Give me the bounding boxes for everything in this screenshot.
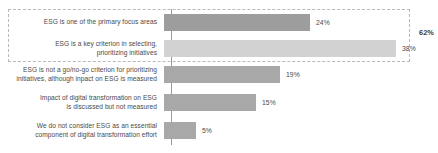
category-label: Impact of digital transformation on ESG … bbox=[0, 94, 164, 111]
category-label: ESG is one of the primary focus areas bbox=[0, 18, 164, 27]
category-label: ESG is a key criterion in selecting, pri… bbox=[0, 40, 164, 57]
bar[interactable] bbox=[164, 66, 280, 83]
bar[interactable] bbox=[164, 40, 396, 57]
bar-value-label: 19% bbox=[280, 71, 300, 78]
chart-row: We do not consider ESG as an essential c… bbox=[0, 122, 438, 139]
bar-value-label: 15% bbox=[256, 99, 276, 106]
bar-value-label: 38% bbox=[396, 45, 416, 52]
bar-area: 24% bbox=[164, 14, 438, 31]
category-label: We do not consider ESG as an essential c… bbox=[0, 122, 164, 139]
chart-row: ESG is a key criterion in selecting, pri… bbox=[0, 40, 438, 57]
bar-area: 5% bbox=[164, 122, 438, 139]
bar[interactable] bbox=[164, 94, 256, 111]
bar[interactable] bbox=[164, 122, 196, 139]
chart-row: ESG is one of the primary focus areas 24… bbox=[0, 14, 438, 31]
bar-area: 15% bbox=[164, 94, 438, 111]
bar-chart: ESG is one of the primary focus areas 24… bbox=[0, 0, 438, 153]
bar-area: 19% bbox=[164, 66, 438, 83]
bar-value-label: 5% bbox=[196, 127, 212, 134]
bar-area: 38% bbox=[164, 40, 438, 57]
chart-row: ESG is not a go/no-go criterion for prio… bbox=[0, 66, 438, 83]
bar-value-label: 24% bbox=[310, 19, 330, 26]
total-percentage-annotation: 62% bbox=[419, 28, 434, 37]
chart-row: Impact of digital transformation on ESG … bbox=[0, 94, 438, 111]
bar[interactable] bbox=[164, 14, 310, 31]
category-label: ESG is not a go/no-go criterion for prio… bbox=[0, 66, 164, 83]
